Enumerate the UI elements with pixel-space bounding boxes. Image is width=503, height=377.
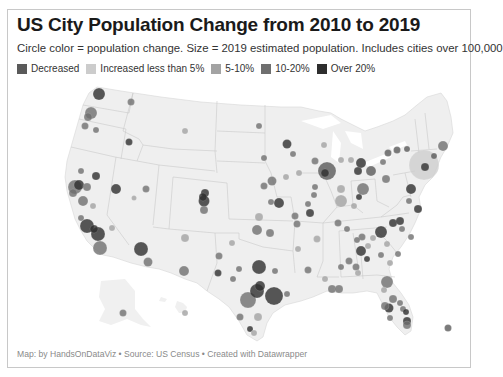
city-circle[interactable] <box>387 315 393 321</box>
city-circle[interactable] <box>384 241 390 247</box>
city-circle[interactable] <box>328 285 336 293</box>
city-circle[interactable] <box>438 141 448 151</box>
city-circle[interactable] <box>268 177 277 186</box>
city-circle[interactable] <box>389 295 397 303</box>
city-circle[interactable] <box>335 285 343 293</box>
city-circle[interactable] <box>406 198 412 204</box>
city-circle[interactable] <box>182 310 188 316</box>
city-circle[interactable] <box>200 206 208 214</box>
city-circle[interactable] <box>252 260 266 274</box>
city-circle[interactable] <box>295 246 301 252</box>
city-circle[interactable] <box>335 220 342 227</box>
city-circle[interactable] <box>406 184 416 194</box>
city-circle[interactable] <box>283 140 292 149</box>
city-circle[interactable] <box>78 196 88 206</box>
city-circle[interactable] <box>356 246 366 256</box>
city-circle[interactable] <box>399 226 405 232</box>
city-circle[interactable] <box>421 163 429 171</box>
city-circle[interactable] <box>408 234 414 240</box>
city-circle[interactable] <box>296 170 302 176</box>
city-circle[interactable] <box>355 270 361 276</box>
city-circle[interactable] <box>389 219 397 227</box>
city-circle[interactable] <box>397 300 403 306</box>
city-circle[interactable] <box>321 169 329 177</box>
city-circle[interactable] <box>126 139 133 146</box>
city-circle[interactable] <box>292 213 299 220</box>
city-circle[interactable] <box>431 153 437 159</box>
city-circle[interactable] <box>128 99 135 106</box>
city-circle[interactable] <box>382 175 390 183</box>
city-circle[interactable] <box>215 270 222 277</box>
city-circle[interactable] <box>403 309 409 315</box>
city-circle[interactable] <box>354 237 360 243</box>
city-circle[interactable] <box>266 229 274 237</box>
city-circle[interactable] <box>353 264 360 271</box>
city-circle[interactable] <box>321 142 327 148</box>
city-circle[interactable] <box>143 186 150 193</box>
city-circle[interactable] <box>78 215 84 221</box>
city-circle[interactable] <box>356 194 362 200</box>
city-circle[interactable] <box>306 209 314 217</box>
city-circle[interactable] <box>256 123 262 129</box>
city-circle[interactable] <box>252 225 262 235</box>
city-circle[interactable] <box>229 240 235 246</box>
city-circle[interactable] <box>404 146 410 152</box>
city-circle[interactable] <box>314 236 321 243</box>
city-circle[interactable] <box>182 128 188 134</box>
city-circle[interactable] <box>338 264 344 270</box>
city-circle[interactable] <box>335 195 347 207</box>
city-circle[interactable] <box>378 252 384 258</box>
city-circle[interactable] <box>255 281 265 291</box>
city-circle[interactable] <box>381 276 393 288</box>
city-circle[interactable] <box>265 287 283 305</box>
city-circle[interactable] <box>93 88 105 100</box>
city-circle[interactable] <box>364 256 370 262</box>
city-circle[interactable] <box>366 166 376 176</box>
city-circle[interactable] <box>274 198 284 208</box>
city-circle[interactable] <box>284 291 290 297</box>
city-circle[interactable] <box>74 180 84 190</box>
city-circle[interactable] <box>381 302 389 310</box>
city-circle[interactable] <box>230 276 236 282</box>
city-circle[interactable] <box>261 183 268 190</box>
city-circle[interactable] <box>387 260 393 266</box>
city-circle[interactable] <box>395 251 401 257</box>
city-circle[interactable] <box>385 150 392 157</box>
city-circle[interactable] <box>83 183 91 191</box>
city-circle[interactable] <box>268 199 274 205</box>
city-circle[interactable] <box>337 185 345 193</box>
city-circle[interactable] <box>144 258 153 267</box>
city-circle[interactable] <box>357 183 369 195</box>
city-circle[interactable] <box>132 196 137 201</box>
city-circle[interactable] <box>311 192 317 198</box>
city-circle[interactable] <box>82 123 89 130</box>
city-circle[interactable] <box>344 226 350 232</box>
city-circle[interactable] <box>134 242 148 256</box>
city-circle[interactable] <box>251 330 257 336</box>
city-circle[interactable] <box>305 201 311 207</box>
city-circle[interactable] <box>216 253 223 260</box>
city-circle[interactable] <box>348 157 354 163</box>
city-circle[interactable] <box>254 313 262 321</box>
city-circle[interactable] <box>375 226 387 238</box>
city-circle[interactable] <box>354 167 362 175</box>
city-circle[interactable] <box>93 241 107 255</box>
city-circle[interactable] <box>338 157 344 163</box>
city-circle[interactable] <box>396 217 404 225</box>
city-circle[interactable] <box>290 151 296 157</box>
city-circle[interactable] <box>181 234 189 242</box>
city-circle[interactable] <box>179 266 189 276</box>
city-circle[interactable] <box>380 159 386 165</box>
city-circle[interactable] <box>394 147 401 154</box>
city-circle[interactable] <box>90 203 96 209</box>
city-circle[interactable] <box>294 221 301 228</box>
city-circle[interactable] <box>120 310 127 317</box>
city-circle[interactable] <box>90 225 98 233</box>
city-circle[interactable] <box>322 276 328 282</box>
city-circle[interactable] <box>272 268 278 274</box>
city-circle[interactable] <box>92 172 100 180</box>
city-circle[interactable] <box>69 189 77 197</box>
city-circle[interactable] <box>346 258 353 265</box>
city-circle[interactable] <box>236 266 242 272</box>
city-circle[interactable] <box>305 267 312 274</box>
